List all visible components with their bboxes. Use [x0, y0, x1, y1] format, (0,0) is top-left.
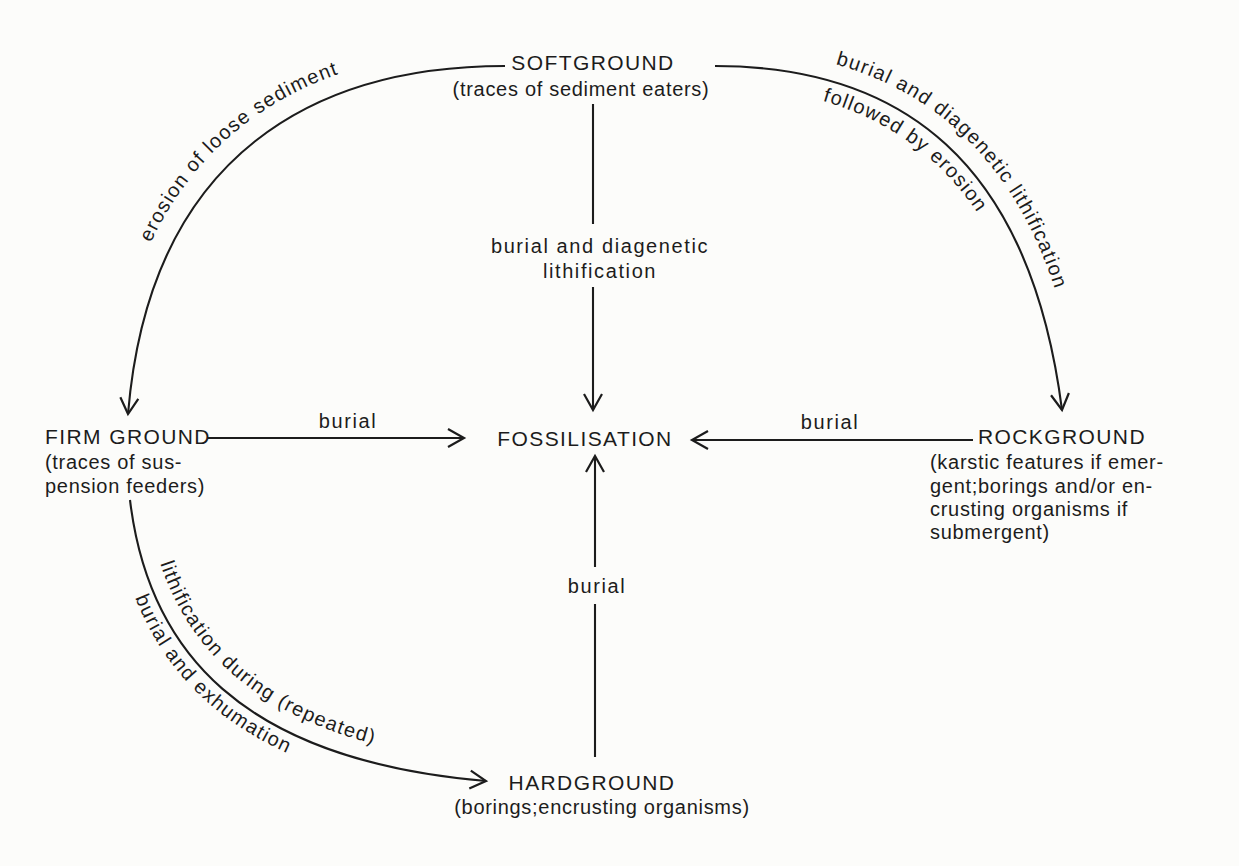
- rockground-title: ROCKGROUND: [978, 425, 1146, 448]
- edge-softground-to-firmground: [128, 66, 505, 414]
- softground-title: SOFTGROUND: [511, 51, 674, 74]
- softground-to-rockground-label-line2: followed by erosion: [821, 84, 992, 216]
- hardground-title: HARDGROUND: [509, 771, 676, 794]
- rockground-subtitle-line1: (karstic features if emer-: [930, 451, 1164, 473]
- softground-to-fossilisation-label-line1: burial and diagenetic: [491, 235, 709, 257]
- firmground-title: FIRM GROUND: [45, 425, 211, 448]
- edge-firmground-to-hardground: [130, 500, 486, 781]
- diagram-canvas: SOFTGROUND (traces of sediment eaters) F…: [0, 0, 1239, 866]
- softground-to-fossilisation-label-line2: lithification: [543, 260, 657, 282]
- hardground-to-fossilisation-label: burial: [568, 575, 627, 597]
- hardground-subtitle: (borings;encrusting organisms): [454, 796, 750, 818]
- rockground-to-fossilisation-label: burial: [801, 411, 860, 433]
- substrate-fossilisation-diagram: SOFTGROUND (traces of sediment eaters) F…: [0, 0, 1239, 866]
- rockground-subtitle-line3: crusting organisms if: [930, 498, 1128, 520]
- fossilisation-title: FOSSILISATION: [497, 427, 672, 450]
- firmground-to-fossilisation-label: burial: [319, 410, 378, 432]
- softground-to-firmground-label: erosion of loose sediment: [135, 57, 341, 245]
- firmground-to-hardground-label-line2: burial and exhumation: [131, 591, 295, 757]
- softground-subtitle: (traces of sediment eaters): [453, 78, 710, 100]
- rockground-subtitle-line4: submergent): [930, 521, 1050, 543]
- firmground-subtitle-line1: (traces of sus-: [45, 451, 182, 473]
- rockground-subtitle-line2: gent;borings and/or en-: [930, 475, 1153, 497]
- firmground-subtitle-line2: pension feeders): [45, 475, 205, 497]
